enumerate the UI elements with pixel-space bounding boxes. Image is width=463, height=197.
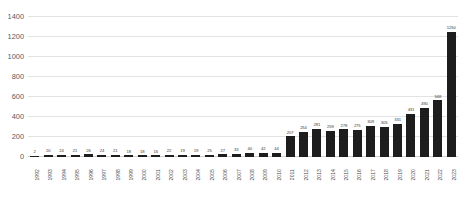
- bar[interactable]: [97, 155, 106, 157]
- x-tick-label: 2019: [391, 159, 404, 177]
- bar-slot: 33: [230, 17, 243, 157]
- bar-slot: 27: [216, 17, 229, 157]
- bar-value-label: 24: [59, 149, 63, 153]
- bar[interactable]: [259, 153, 268, 157]
- bar[interactable]: [272, 153, 281, 157]
- bar[interactable]: [205, 155, 214, 158]
- x-tick-label: 2009: [256, 159, 269, 177]
- bar-value-label: 26: [86, 149, 90, 153]
- bar[interactable]: [57, 155, 66, 157]
- bar-value-label: 18: [127, 150, 131, 154]
- bar[interactable]: [191, 155, 200, 157]
- bar[interactable]: [84, 154, 93, 157]
- bar[interactable]: [245, 153, 254, 157]
- bar[interactable]: [71, 155, 80, 157]
- bar[interactable]: [44, 155, 53, 157]
- y-tick-label-400: 400: [12, 113, 24, 120]
- x-tick-label-text: 2017: [371, 169, 376, 181]
- bar[interactable]: [339, 129, 348, 157]
- x-tick-label: 2023: [445, 159, 458, 177]
- bar-value-label: 259: [327, 125, 334, 129]
- x-tick-label-text: 2012: [303, 169, 308, 181]
- x-tick-label: 1993: [41, 159, 54, 177]
- bar[interactable]: [312, 129, 321, 157]
- bar[interactable]: [111, 155, 120, 157]
- bar-value-label: 27: [221, 149, 225, 153]
- x-tick-label: 1994: [55, 159, 68, 177]
- x-tick-label-text: 2019: [398, 169, 403, 181]
- x-tick-label-text: 2002: [169, 169, 174, 181]
- bar[interactable]: [30, 156, 39, 158]
- bar[interactable]: [326, 131, 335, 157]
- x-tick-label-text: 2009: [263, 169, 268, 181]
- x-tick-label: 1997: [95, 159, 108, 177]
- bar[interactable]: [218, 154, 227, 157]
- bar-value-label: 33: [234, 148, 238, 152]
- x-tick-label: 1998: [109, 159, 122, 177]
- bar[interactable]: [178, 155, 187, 157]
- x-tick-label: 2015: [337, 159, 350, 177]
- bar-slot: 44: [270, 17, 283, 157]
- bar-value-label: 18: [140, 150, 144, 154]
- bar[interactable]: [433, 100, 442, 157]
- x-tick-label-text: 2007: [236, 169, 241, 181]
- x-tick-label-text: 1999: [129, 169, 134, 181]
- bar-value-label: 25: [207, 149, 211, 153]
- bar-slot: 18: [122, 17, 135, 157]
- x-tick-label-text: 2018: [384, 169, 389, 181]
- bar-value-label: 431: [408, 108, 415, 112]
- bar-value-label: 305: [381, 121, 388, 125]
- x-tick-label-text: 2006: [223, 169, 228, 181]
- bar[interactable]: [299, 132, 308, 157]
- bar[interactable]: [447, 32, 456, 157]
- bar-slot: 490: [418, 17, 431, 157]
- x-tick-label-text: 2016: [357, 169, 362, 181]
- x-tick-label: 2014: [324, 159, 337, 177]
- bar[interactable]: [124, 155, 133, 157]
- bar-slot: 2: [28, 17, 41, 157]
- bar[interactable]: [380, 127, 389, 158]
- x-tick-label: 2011: [283, 159, 296, 177]
- bar[interactable]: [420, 108, 429, 157]
- bar-chart: 0200400600800100012001400 22024212624211…: [0, 0, 463, 197]
- x-tick-label: 2022: [431, 159, 444, 177]
- bar[interactable]: [286, 136, 295, 157]
- x-tick-label: 2003: [176, 159, 189, 177]
- x-tick-label-text: 2003: [183, 169, 188, 181]
- x-tick-label-text: 1994: [62, 169, 67, 181]
- bar-slot: 24: [95, 17, 108, 157]
- bar[interactable]: [353, 130, 362, 158]
- x-tick-label: 1999: [122, 159, 135, 177]
- x-tick-label-text: 2014: [330, 169, 335, 181]
- x-tick-label: 2004: [189, 159, 202, 177]
- x-tick-label: 2005: [203, 159, 216, 177]
- bar[interactable]: [393, 124, 402, 157]
- bar-slot: 281: [310, 17, 323, 157]
- bar-slot: 568: [431, 17, 444, 157]
- bar[interactable]: [232, 154, 241, 157]
- x-tick-label: 2000: [136, 159, 149, 177]
- bar-slot: 21: [109, 17, 122, 157]
- y-tick-label-600: 600: [12, 93, 24, 100]
- x-tick-label: 2001: [149, 159, 162, 177]
- bar-slot: 305: [377, 17, 390, 157]
- bar[interactable]: [138, 155, 147, 157]
- x-tick-label: 2013: [310, 159, 323, 177]
- y-axis-tick-labels: 0200400600800100012001400: [0, 0, 24, 197]
- x-tick-label-text: 2020: [411, 169, 416, 181]
- bar[interactable]: [366, 126, 375, 157]
- bar[interactable]: [406, 114, 415, 157]
- x-tick-label-text: 1993: [48, 169, 53, 181]
- x-tick-label: 2021: [418, 159, 431, 177]
- y-tick-label-1400: 1400: [8, 13, 24, 20]
- bar-value-label: 44: [274, 147, 278, 151]
- bar[interactable]: [165, 155, 174, 157]
- bar-slot: 1250: [445, 17, 458, 157]
- bar-slot: 309: [364, 17, 377, 157]
- bar[interactable]: [151, 155, 160, 157]
- x-tick-label-text: 2011: [290, 169, 295, 180]
- x-tick-label: 2008: [243, 159, 256, 177]
- x-tick-label: 2016: [351, 159, 364, 177]
- x-tick-label-text: 2010: [277, 169, 282, 181]
- x-tick-label: 1996: [82, 159, 95, 177]
